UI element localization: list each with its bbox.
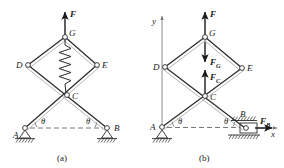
joint-g-b [203, 35, 208, 40]
label-point-c-b: C [210, 92, 217, 102]
bar-d-g-b-edge [167, 39, 207, 69]
label-theta-a-right: θ [86, 116, 90, 126]
label-point-b-b: B [240, 109, 246, 119]
label-point-g-b: G [209, 28, 216, 38]
ground-hatch-b [98, 139, 116, 143]
label-point-d-b: D [152, 62, 160, 72]
label-force-f-a: F [69, 9, 76, 19]
joint-e-a [95, 63, 100, 68]
svg-text:G: G [216, 62, 221, 69]
label-theta-b-right: θ [224, 116, 228, 126]
pin-triangle-b-a [157, 130, 168, 138]
ground-hatch-a [16, 139, 34, 143]
svg-text:B: B [265, 121, 271, 128]
figure-root: F G D E C A B θ θ (a) y x [0, 0, 284, 168]
label-force-fc: F C [209, 72, 221, 84]
figure-canvas: F G D E C A B θ θ (a) y x [0, 0, 284, 168]
label-axis-x: x [270, 129, 275, 139]
label-point-c-a: C [72, 91, 79, 101]
svg-text:C: C [216, 77, 221, 84]
label-theta-b-left: θ [178, 116, 182, 126]
diagram-b: y x [149, 9, 277, 163]
label-force-f-b: F [209, 9, 216, 19]
label-force-fg: F G [209, 57, 221, 69]
spring-g-c [59, 37, 71, 94]
label-force-fb: F B [259, 116, 271, 128]
diagram-a: F G D E C A B θ θ (a) [12, 9, 120, 163]
svg-text:F: F [209, 72, 216, 82]
caption-b: (b) [199, 153, 210, 163]
label-point-b-a: B [114, 123, 120, 133]
label-point-d-a: D [15, 60, 23, 70]
label-point-a-b: A [149, 122, 156, 132]
bar-e-g-b-edge [203, 39, 240, 70]
joint-c-a [65, 93, 70, 98]
bar-a-e-b [162, 68, 242, 127]
joint-d-b [163, 65, 168, 70]
joint-e-b [240, 66, 245, 71]
angle-arc-a-left [35, 122, 37, 127]
joint-g-a [63, 35, 68, 40]
joint-b-b [244, 126, 249, 131]
upper-bars-b [165, 37, 242, 70]
slider-hatch-bottom [229, 135, 259, 139]
svg-text:F: F [209, 57, 216, 67]
ground-hatch-b-a [153, 139, 171, 143]
label-point-e-b: E [246, 63, 253, 73]
label-point-g-a: G [69, 28, 76, 38]
bar-e-g [65, 37, 97, 65]
joint-b-a [105, 126, 110, 131]
label-point-a-a: A [12, 130, 19, 140]
label-point-e-a: E [101, 60, 108, 70]
label-theta-a-left: θ [41, 116, 45, 126]
caption-a: (a) [57, 153, 67, 163]
bar-d-g-b [165, 37, 205, 67]
svg-text:F: F [259, 116, 266, 126]
label-axis-y: y [151, 16, 156, 26]
joint-d-a [26, 63, 31, 68]
joint-c-b [203, 94, 208, 99]
joint-a-b [160, 125, 165, 130]
joint-a-a [23, 126, 28, 131]
upper-bars-a [28, 37, 97, 67]
pin-triangle-a [20, 130, 31, 138]
pin-triangle-b [102, 130, 113, 138]
